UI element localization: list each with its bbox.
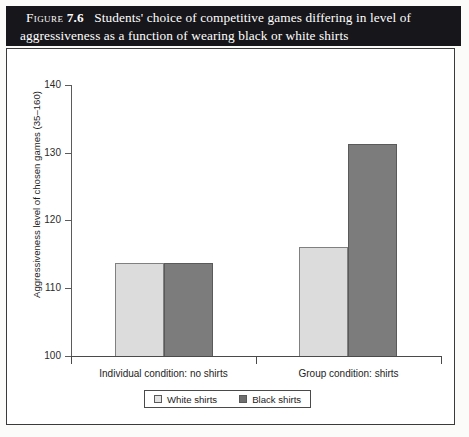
- chart-panel: Aggressiveness level of chosen games (35…: [6, 48, 455, 425]
- y-tick-label-100: 100: [27, 351, 61, 361]
- y-tick-label-110: 110: [27, 283, 61, 293]
- y-axis-title: Aggressiveness level of chosen games (35…: [31, 80, 42, 310]
- y-tick-label-130-wrap: 130: [23, 148, 61, 158]
- figure-container: Figure 7.6 Students' choice of competiti…: [0, 0, 469, 437]
- figure-label: Figure: [26, 10, 63, 25]
- x-tick-end: [441, 357, 442, 364]
- x-category-label-group: Group condition: shirts: [256, 368, 441, 379]
- plot-area: [71, 85, 441, 356]
- y-tick-label-140: 140: [27, 80, 61, 90]
- y-tick-label-120-wrap: 120: [23, 215, 61, 225]
- bar-individual-black-shirts: [164, 263, 213, 357]
- x-tick-start: [71, 357, 72, 364]
- legend-swatch-black-shirts-icon: [239, 395, 247, 403]
- legend-item-white-shirts: White shirts: [154, 394, 217, 405]
- figure-title-banner: Figure 7.6 Students' choice of competiti…: [6, 6, 461, 46]
- legend-label-white-shirts: White shirts: [167, 394, 217, 405]
- chart-legend: White shirts Black shirts: [144, 390, 311, 408]
- x-category-label-individual: Individual condition: no shirts: [71, 368, 256, 379]
- y-tick-label-110-wrap: 110: [23, 283, 61, 293]
- bar-individual-white-shirts: [115, 263, 164, 357]
- bar-group-white-shirts: [299, 247, 348, 357]
- legend-swatch-white-shirts-icon: [154, 395, 162, 403]
- legend-label-black-shirts: Black shirts: [252, 394, 301, 405]
- bar-group-black-shirts: [348, 144, 397, 357]
- y-tick-label-120: 120: [27, 215, 61, 225]
- y-tick-label-130: 130: [27, 148, 61, 158]
- figure-number: 7.6: [67, 10, 84, 25]
- legend-item-black-shirts: Black shirts: [239, 394, 301, 405]
- y-tick-label-140-wrap: 140: [23, 80, 61, 90]
- x-tick-divider: [256, 357, 257, 364]
- y-tick-label-100-wrap: 100: [23, 351, 61, 361]
- figure-title-text: Figure 7.6 Students' choice of competiti…: [20, 9, 447, 44]
